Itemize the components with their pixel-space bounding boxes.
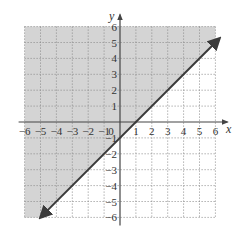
y-tick-label: −2	[105, 148, 117, 160]
x-tick-label: 4	[181, 125, 187, 137]
x-tick-label: −2	[82, 125, 94, 137]
x-tick-label: 2	[149, 125, 155, 137]
y-tick-label: −5	[105, 196, 117, 208]
y-tick-label: 4	[112, 52, 118, 64]
x-tick-label: 6	[213, 125, 219, 137]
x-tick-label: −5	[35, 125, 47, 137]
y-tick-label: 3	[112, 68, 118, 80]
x-axis-label: x	[225, 122, 232, 136]
y-tick-label: −3	[105, 164, 117, 176]
x-tick-label: −3	[66, 125, 78, 137]
y-tick-label: 2	[112, 84, 118, 96]
inequality-graph: −6−5−4−3−2−10123456−6−5−4−3−2−1123456 x …	[0, 0, 237, 234]
x-tick-label: −6	[19, 125, 31, 137]
y-tick-label: −1	[105, 132, 117, 144]
x-tick-label: −4	[51, 125, 63, 137]
y-tick-label: 1	[112, 100, 118, 112]
x-tick-label: 5	[197, 125, 203, 137]
y-tick-label: 5	[112, 37, 118, 49]
x-tick-label: 1	[133, 125, 139, 137]
x-tick-label: 3	[165, 125, 171, 137]
y-tick-label: −4	[105, 180, 117, 192]
y-tick-label: −6	[105, 211, 117, 223]
y-axis-label: y	[108, 9, 115, 23]
